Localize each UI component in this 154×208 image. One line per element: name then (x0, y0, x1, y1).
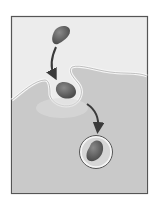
cell-cytoplasm (12, 66, 147, 193)
phagocytosis-diagram (0, 0, 154, 208)
vesicle (80, 136, 113, 169)
